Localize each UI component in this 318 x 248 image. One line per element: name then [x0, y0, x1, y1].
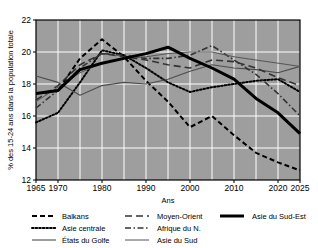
y-tick-label: 16 [22, 111, 32, 121]
legend-label-balkans: Balkans [62, 212, 89, 221]
legend-label-afrique-du-nord: Afrique du N. [157, 224, 201, 233]
x-tick-label: 2025 [291, 183, 310, 193]
x-tick-label: 1990 [137, 183, 156, 193]
legend-label-asie-du-sud-est: Asie du Sud-Est [252, 212, 307, 221]
x-axis-title: Ans [162, 196, 175, 205]
x-tick-label: 2020 [269, 183, 288, 193]
population-share-line-chart: 121416182022 196519701980199020002010202… [0, 0, 318, 248]
x-tick-label: 1965 [27, 183, 46, 193]
y-tick-label: 14 [22, 143, 32, 153]
legend-label-moyen-orient: Moyen-Orient [157, 212, 203, 221]
legend-label-etats-du-golfe: États du Golfe [62, 236, 110, 245]
legend-label-asie-centrale: Asie centrale [62, 224, 105, 233]
legend-label-asie-du-sud: Asie du Sud [157, 236, 197, 245]
y-tick-label: 22 [22, 15, 32, 25]
x-tick-label: 1970 [49, 183, 68, 193]
x-tick-label: 2000 [181, 183, 200, 193]
y-tick-label: 20 [22, 47, 32, 57]
x-tick-label: 2010 [225, 183, 244, 193]
x-tick-label: 1980 [93, 183, 112, 193]
y-axis-title: % des 15-24 ans dans la population total… [6, 30, 15, 170]
y-tick-label: 18 [22, 79, 32, 89]
chart-figure: 121416182022 196519701980199020002010202… [0, 0, 318, 248]
